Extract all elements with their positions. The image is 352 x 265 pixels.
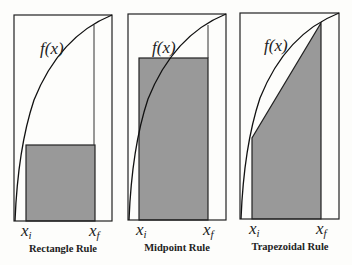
function-label: f(x) xyxy=(152,38,176,57)
xi-label: xi xyxy=(135,220,147,240)
panel-rectangle-rule: f(x) xi xf Rectangle Rule xyxy=(14,15,112,254)
rectangle-area xyxy=(26,145,95,221)
midpoint-rectangle-area xyxy=(139,58,208,220)
xf-label: xf xyxy=(315,219,329,239)
panel-title: Trapezoidal Rule xyxy=(251,241,328,252)
panel-midpoint-rule: f(x) xi xf Midpoint Rule xyxy=(128,14,226,253)
xi-label: xi xyxy=(20,221,32,241)
panel-trapezoidal-rule: f(x) xi xf Trapezoidal Rule xyxy=(240,13,339,252)
function-label: f(x) xyxy=(264,36,288,55)
xf-label: xf xyxy=(202,220,216,240)
function-label: f(x) xyxy=(40,39,64,58)
xf-label: xf xyxy=(88,221,102,241)
xi-label: xi xyxy=(248,219,260,239)
panel-title: Midpoint Rule xyxy=(144,242,210,253)
panel-title: Rectangle Rule xyxy=(29,243,97,254)
